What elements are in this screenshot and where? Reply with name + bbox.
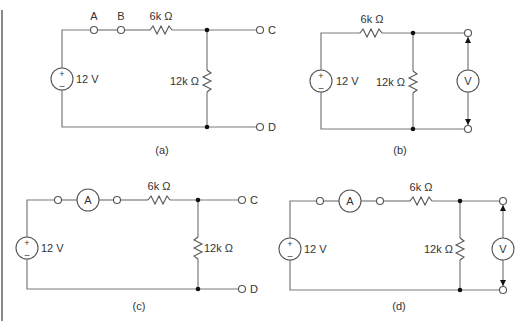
terminal-b-label: B xyxy=(117,10,124,22)
terminal-bottom xyxy=(500,287,507,294)
ammeter-label: A xyxy=(346,195,354,207)
source-label: 12 V xyxy=(304,243,327,255)
terminal-ammeter-right xyxy=(377,198,384,205)
shunt-resistor-label: 12k Ω xyxy=(170,75,199,87)
wire-top-left xyxy=(290,201,316,238)
shunt-resistor-label: 12k Ω xyxy=(204,242,233,254)
terminal-c-label: C xyxy=(268,24,276,36)
arrow-up-icon xyxy=(465,37,471,43)
source-label: 12 V xyxy=(41,242,64,254)
series-resistor-label: 6k Ω xyxy=(410,181,433,193)
terminal-c xyxy=(257,27,264,34)
junction-bottom xyxy=(458,288,463,293)
source-plus-sign: + xyxy=(287,239,292,249)
terminal-d-label: D xyxy=(250,283,258,295)
shunt-resistor xyxy=(203,70,211,92)
series-resistor-label: 6k Ω xyxy=(361,13,384,25)
junction-bottom xyxy=(196,287,201,292)
panel-caption: (c) xyxy=(133,300,146,312)
terminal-d-label: D xyxy=(268,121,276,133)
terminal-bottom xyxy=(465,126,472,133)
source-minus-sign: – xyxy=(287,251,292,261)
panel-c: + – 12 V A 6k Ω 12k Ω C D (c) xyxy=(16,180,258,312)
source-minus-sign: – xyxy=(24,250,29,260)
shunt-resistor-label: 12k Ω xyxy=(424,243,453,255)
junction-top xyxy=(196,198,201,203)
terminal-a-label: A xyxy=(90,10,98,22)
source-label: 12 V xyxy=(76,73,99,85)
series-resistor-label: 6k Ω xyxy=(150,10,173,22)
arrow-down-icon xyxy=(500,280,506,286)
terminal-a xyxy=(91,27,98,34)
panel-b: + – 12 V 6k Ω 12k Ω V (b) xyxy=(310,13,479,156)
shunt-resistor-label: 12k Ω xyxy=(376,76,405,88)
terminal-d xyxy=(239,286,246,293)
terminal-c xyxy=(239,197,246,204)
junction-bottom xyxy=(205,125,210,130)
terminal-top xyxy=(500,198,507,205)
panel-caption: (d) xyxy=(392,300,405,312)
source-plus-sign: + xyxy=(24,238,29,248)
panel-caption: (b) xyxy=(393,144,406,156)
terminal-ammeter-right xyxy=(114,197,121,204)
junction-bottom xyxy=(411,127,416,132)
terminal-c-label: C xyxy=(250,194,258,206)
wire-top-left xyxy=(62,30,90,68)
arrow-up-icon xyxy=(500,205,506,211)
junction-top xyxy=(411,31,416,36)
source-minus-sign: – xyxy=(59,81,64,91)
arrow-down-icon xyxy=(465,119,471,125)
source-label: 12 V xyxy=(336,75,359,87)
junction-top xyxy=(205,28,210,33)
terminal-top xyxy=(465,30,472,37)
panel-caption: (a) xyxy=(155,144,168,156)
series-resistor-label: 6k Ω xyxy=(148,180,171,192)
panel-a: + – 12 V A B 6k Ω 12k Ω C D (a) xyxy=(51,10,276,156)
source-plus-sign: + xyxy=(59,69,64,79)
series-resistor xyxy=(148,196,170,204)
wire-top-left xyxy=(27,200,54,237)
voltmeter-label: V xyxy=(464,75,472,87)
shunt-resistor xyxy=(409,71,417,93)
ammeter-label: A xyxy=(84,194,92,206)
wire-bottom xyxy=(62,90,256,127)
terminal-b xyxy=(118,27,125,34)
shunt-resistor xyxy=(194,237,202,259)
terminal-ammeter-left xyxy=(317,198,324,205)
wire-bottom xyxy=(321,92,464,129)
shunt-resistor xyxy=(456,238,464,260)
voltmeter-label: V xyxy=(499,243,507,255)
wire-top-left xyxy=(321,33,360,70)
series-resistor xyxy=(410,197,432,205)
terminal-ammeter-left xyxy=(55,197,62,204)
series-resistor xyxy=(150,26,172,34)
source-plus-sign: + xyxy=(318,71,323,81)
terminal-d xyxy=(257,124,264,131)
wire-bottom xyxy=(290,260,499,290)
circuit-figure: + – 12 V A B 6k Ω 12k Ω C D (a) + – 12 V xyxy=(0,0,525,321)
source-minus-sign: – xyxy=(318,83,323,93)
junction-top xyxy=(458,199,463,204)
series-resistor xyxy=(360,29,382,37)
wire-bottom xyxy=(27,259,238,289)
panel-d: + – 12 V A 6k Ω 12k Ω V (d) xyxy=(279,181,514,312)
